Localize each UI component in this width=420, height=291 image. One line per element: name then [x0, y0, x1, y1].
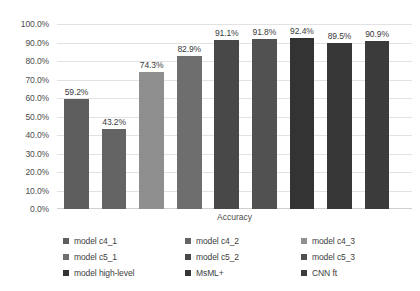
- bar-slot[interactable]: 90.9%: [365, 24, 390, 209]
- legend-swatch-icon: [185, 238, 191, 244]
- bar[interactable]: [64, 99, 89, 209]
- bars-layer: 59.2%43.2%74.3%82.9%91.1%91.8%92.4%89.5%…: [57, 24, 412, 209]
- bar-value-label: 90.9%: [365, 29, 389, 39]
- bar[interactable]: [214, 40, 239, 209]
- bar-slot[interactable]: 43.2%: [102, 24, 127, 209]
- bar-slot[interactable]: 91.1%: [214, 24, 239, 209]
- bar-slot[interactable]: 59.2%: [64, 24, 89, 209]
- legend-label: CNN ft: [312, 268, 337, 278]
- y-axis-tick-label: 100.0%: [21, 19, 49, 29]
- y-axis-tick-label: 70.0%: [25, 75, 49, 85]
- y-axis-tick-label: 50.0%: [25, 112, 49, 122]
- legend-swatch-icon: [63, 270, 69, 276]
- legend-label: model high-level: [74, 268, 134, 278]
- bar-value-label: 91.1%: [215, 28, 239, 38]
- bar-slot[interactable]: 74.3%: [139, 24, 164, 209]
- bar[interactable]: [177, 56, 202, 209]
- legend-swatch-icon: [301, 254, 307, 260]
- bar[interactable]: [252, 39, 277, 209]
- bar[interactable]: [327, 43, 352, 209]
- bar[interactable]: [290, 38, 315, 209]
- bar-value-label: 89.5%: [328, 31, 352, 41]
- legend-item[interactable]: model high-level: [63, 268, 134, 278]
- y-axis-tick-labels: 0.0%10.0%20.0%30.0%40.0%50.0%60.0%70.0%8…: [0, 24, 53, 209]
- legend-item[interactable]: model c5_2: [185, 252, 239, 262]
- legend-swatch-icon: [301, 238, 307, 244]
- legend-label: MsML+: [196, 268, 224, 278]
- y-axis-tick-label: 20.0%: [25, 167, 49, 177]
- legend-swatch-icon: [63, 238, 69, 244]
- legend-item[interactable]: model c5_1: [63, 252, 117, 262]
- bar-slot[interactable]: 92.4%: [290, 24, 315, 209]
- bar-chart: 0.0%10.0%20.0%30.0%40.0%50.0%60.0%70.0%8…: [0, 0, 420, 291]
- legend-label: model c4_1: [74, 236, 117, 246]
- bar-value-label: 59.2%: [65, 87, 89, 97]
- bar-value-label: 43.2%: [102, 117, 126, 127]
- legend-label: model c5_3: [312, 252, 355, 262]
- legend-item[interactable]: model c4_1: [63, 236, 117, 246]
- legend-label: model c5_1: [74, 252, 117, 262]
- legend-label: model c5_2: [196, 252, 239, 262]
- bar-value-label: 92.4%: [290, 26, 314, 36]
- y-axis-tick-label: 90.0%: [25, 38, 49, 48]
- y-axis-tick-label: 30.0%: [25, 149, 49, 159]
- legend-label: model c4_3: [312, 236, 355, 246]
- legend-item[interactable]: model c5_3: [301, 252, 355, 262]
- bar-value-label: 74.3%: [140, 60, 164, 70]
- legend-label: model c4_2: [196, 236, 239, 246]
- x-axis-title: Accuracy: [57, 212, 412, 222]
- legend-item[interactable]: CNN ft: [301, 268, 337, 278]
- y-axis-tick-label: 10.0%: [25, 186, 49, 196]
- y-axis-tick-label: 0.0%: [30, 204, 49, 214]
- bar-slot[interactable]: 82.9%: [177, 24, 202, 209]
- legend-swatch-icon: [63, 254, 69, 260]
- y-axis-tick-label: 60.0%: [25, 93, 49, 103]
- bar[interactable]: [139, 72, 164, 209]
- bar-value-label: 82.9%: [177, 44, 201, 54]
- bar-slot[interactable]: 91.8%: [252, 24, 277, 209]
- legend-item[interactable]: model c4_2: [185, 236, 239, 246]
- legend-swatch-icon: [301, 270, 307, 276]
- y-axis-tick-label: 40.0%: [25, 130, 49, 140]
- bar-slot[interactable]: 89.5%: [327, 24, 352, 209]
- bar[interactable]: [365, 41, 390, 209]
- y-axis-tick-label: 80.0%: [25, 56, 49, 66]
- bar-value-label: 91.8%: [253, 27, 277, 37]
- legend-swatch-icon: [185, 254, 191, 260]
- chart-legend: model c4_1model c4_2model c4_3model c5_1…: [0, 234, 420, 289]
- bar[interactable]: [102, 129, 127, 209]
- legend-swatch-icon: [185, 270, 191, 276]
- legend-item[interactable]: model c4_3: [301, 236, 355, 246]
- legend-item[interactable]: MsML+: [185, 268, 224, 278]
